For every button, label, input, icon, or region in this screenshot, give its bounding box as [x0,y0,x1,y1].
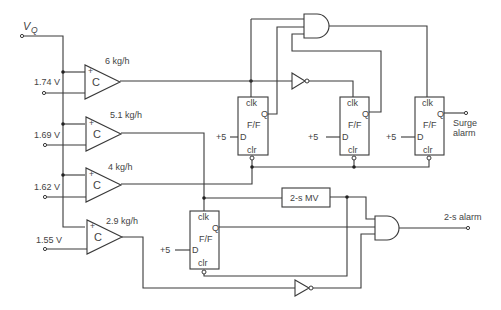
d-label: D [342,132,349,142]
wire-comp3-out [121,167,252,184]
comparator-4kgh: + C 4 kg/h 1.62 V [34,162,133,202]
clk-label: clk [198,212,209,222]
flipflop-2: clk Q F/F D clr +5 [292,34,381,160]
comparator-symbol: C [94,231,102,243]
clr-label: clr [247,145,257,155]
ff-label: F/F [247,120,261,130]
inverter-bubble [309,286,313,290]
comparator-symbol: C [93,179,101,191]
d-supply-label: +5 [216,132,226,142]
reference-label: 1.69 V [34,130,60,140]
q-label: Q [437,109,444,119]
junction [61,122,65,126]
clk-label: clk [347,98,358,108]
inverter-2 [295,234,375,296]
comparator-6kgh: + C 6 kg/h 1.74 V [34,56,130,99]
d-label: D [192,245,199,255]
clk-label: clk [422,98,433,108]
plus-sign: + [88,66,93,76]
vq-subscript: Q [31,25,38,35]
plus-sign: + [90,221,95,231]
q-label: Q [362,109,369,119]
2s-alarm-label: 2-s alarm [444,212,482,222]
input-vq: V Q [20,20,85,227]
and-gate-surge [304,14,427,97]
flipflop-3: clk Q F/F D clr +5 Surge alarm [386,97,477,160]
junction [61,70,65,74]
flipflop-1: clk Q F/F D clr +5 [216,27,304,160]
ref-terminal [42,91,45,94]
threshold-label: 4 kg/h [108,162,133,172]
wire-comp2-out [121,133,204,211]
plus-sign: + [89,169,94,179]
flipflop-4: clk Q F/F D clr +5 [160,197,375,276]
threshold-label: 6 kg/h [105,56,130,66]
d-supply-label: +5 [386,132,396,142]
2s-alarm-terminal [466,226,469,229]
ff-label: F/F [199,234,213,244]
q-label: Q [212,223,219,233]
surge-alarm-label: Surge [453,118,477,128]
inverter-1 [292,73,353,97]
surge-alarm-label-2: alarm [453,128,476,138]
d-supply-label: +5 [308,132,318,142]
comparator-symbol: C [92,76,100,88]
comparator-5-1kgh: + C 5.1 kg/h 1.69 V [34,110,142,151]
ref-terminal [43,247,46,250]
reference-label: 1.55 V [36,235,62,245]
inverter-bubble [305,79,309,83]
clear-bus [252,160,429,167]
clr-label: clr [198,258,208,268]
clk-label: clk [246,98,257,108]
ref-terminal [43,143,46,146]
ref-terminal [43,195,46,198]
vq-terminal [20,34,23,37]
clr-label: clr [423,145,433,155]
threshold-label: 5.1 kg/h [110,110,142,120]
monostable-2s: 2-s MV [282,188,375,219]
reference-label: 1.74 V [34,77,60,87]
circuit-diagram: V Q + C 6 kg/h 1.74 V + C 5.1 kg/h 1.69 … [0,0,501,310]
plus-sign: + [89,118,94,128]
ff-label: F/F [348,120,362,130]
comparator-symbol: C [93,128,101,140]
d-label: D [240,132,247,142]
ff-label: F/F [423,120,437,130]
mv-label: 2-s MV [290,193,319,203]
junction [61,173,65,177]
clr-label: clr [348,145,358,155]
threshold-label: 2.9 kg/h [106,216,138,226]
d-label: D [417,132,424,142]
q-label: Q [261,109,268,119]
and-gate-2s-alarm: 2-s alarm [375,212,482,240]
comparator-2-9kgh: + C 2.9 kg/h 1.55 V [36,216,138,254]
reference-label: 1.62 V [34,182,60,192]
d-supply-label: +5 [160,245,170,255]
surge-alarm-terminal [464,111,467,114]
